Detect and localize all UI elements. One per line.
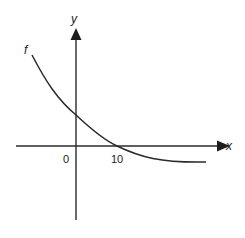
y-axis-arrow-icon [71, 28, 82, 40]
x-tick-10: 10 [111, 154, 123, 165]
function-graph [0, 0, 245, 238]
y-axis-label: y [71, 13, 77, 25]
curve-label-f: f [24, 44, 27, 56]
x-axis-label: x [226, 140, 232, 152]
x-tick-0: 0 [63, 154, 69, 165]
